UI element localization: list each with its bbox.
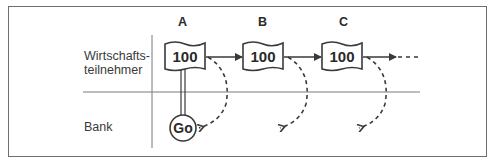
flag-c-amount: 100 [329, 48, 354, 65]
flag-b-amount: 100 [250, 48, 275, 65]
bank-go-label: Go [173, 120, 192, 136]
flag-c: 100 [322, 42, 362, 71]
flag-b: 100 [243, 42, 283, 71]
bank-go-node: Go [170, 115, 196, 141]
flow-diagram: 100 100 100 Go [0, 0, 495, 165]
flag-a: 100 [165, 42, 205, 71]
flag-a-amount: 100 [172, 48, 197, 65]
